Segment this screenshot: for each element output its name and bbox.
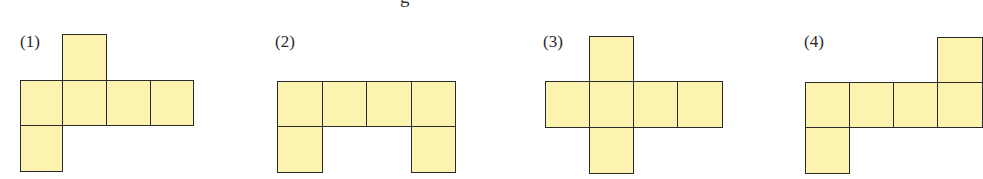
- net-square: [106, 80, 151, 126]
- net-square: [411, 126, 456, 173]
- net-square: [805, 127, 850, 174]
- net-label: (3): [543, 33, 563, 50]
- net-square: [20, 80, 63, 126]
- net-label: (4): [804, 33, 824, 50]
- net-square: [62, 80, 107, 126]
- net-square: [937, 37, 983, 83]
- net-label: (2): [275, 33, 295, 50]
- net-square: [277, 81, 323, 127]
- net-square: [805, 82, 850, 128]
- clipped-heading-fragment: g: [400, 0, 410, 8]
- net-square: [937, 82, 983, 128]
- net-square: [545, 81, 590, 128]
- net-square: [62, 34, 107, 81]
- net-square: [677, 81, 723, 128]
- net-square: [366, 81, 412, 127]
- net-label: (1): [20, 33, 40, 50]
- net-square: [150, 80, 194, 126]
- net-square: [277, 126, 323, 173]
- net-square: [589, 127, 634, 174]
- net-square: [411, 81, 456, 127]
- net-square: [849, 82, 894, 128]
- net-square: [322, 81, 367, 127]
- net-square: [20, 125, 63, 172]
- net-square: [589, 81, 634, 128]
- net-square: [893, 82, 938, 128]
- net-square: [633, 81, 678, 128]
- net-square: [589, 36, 634, 82]
